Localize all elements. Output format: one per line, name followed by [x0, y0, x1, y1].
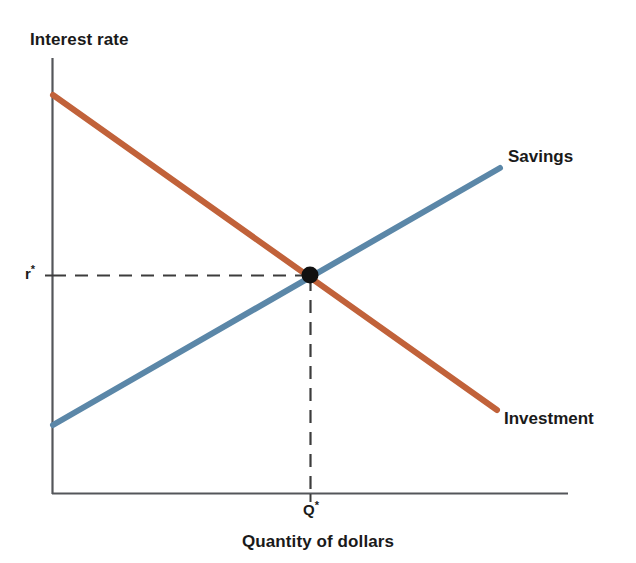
loanable-funds-chart: Interest rate Quantity of dollars Saving…: [0, 0, 636, 563]
x-axis-label: Quantity of dollars: [0, 533, 636, 550]
q-star-asterisk: *: [315, 499, 319, 511]
equilibrium-point-dot: [302, 267, 319, 284]
investment-series-label: Investment: [504, 410, 594, 427]
chart-canvas: [0, 0, 636, 563]
savings-series-label: Savings: [508, 148, 573, 165]
q-star-base: Q: [303, 501, 315, 518]
investment-curve: [53, 95, 497, 410]
y-axis-label: Interest rate: [30, 31, 129, 48]
q-star-tick-label: Q*: [294, 502, 328, 517]
savings-curve: [53, 168, 500, 425]
r-star-tick-label: r*: [25, 266, 35, 281]
r-star-asterisk: *: [31, 263, 35, 275]
